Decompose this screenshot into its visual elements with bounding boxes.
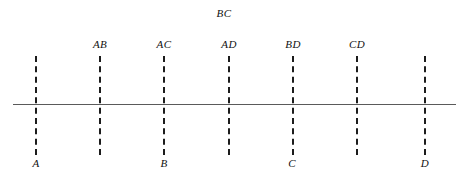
point-label: A bbox=[32, 158, 39, 169]
cut-label: BD bbox=[285, 39, 300, 50]
diagram-canvas: BC ABACADBDCD ABCD bbox=[0, 0, 463, 182]
point-label: C bbox=[288, 158, 296, 169]
cut-line bbox=[292, 56, 294, 155]
cut-line bbox=[228, 56, 230, 155]
cut-line bbox=[163, 56, 165, 155]
cut-label: AC bbox=[157, 39, 172, 50]
cut-label: CD bbox=[349, 39, 365, 50]
cut-line bbox=[35, 56, 37, 155]
cut-line bbox=[424, 56, 426, 155]
point-label: D bbox=[421, 158, 429, 169]
diagram-title-label: BC bbox=[217, 8, 232, 19]
cut-label: AD bbox=[221, 39, 236, 50]
cut-line bbox=[99, 56, 101, 155]
point-label: B bbox=[160, 158, 167, 169]
cut-label: AB bbox=[93, 39, 107, 50]
cut-line bbox=[356, 56, 358, 155]
horizontal-axis-line bbox=[13, 104, 456, 105]
